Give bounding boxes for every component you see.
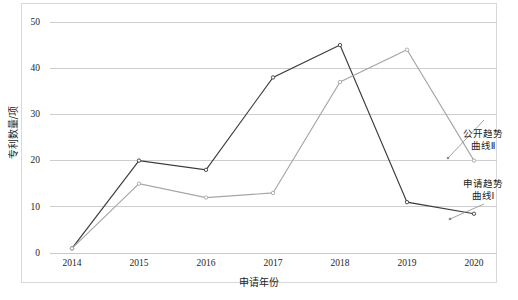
xtick-label-2015: 2015 [119,258,159,268]
gridlines [50,22,497,253]
series-layer [70,43,475,250]
xtick-label-2016: 2016 [186,258,226,268]
data-point [204,168,207,171]
data-point [204,196,207,199]
data-point [472,159,475,162]
ytick-label-10: 10 [18,202,40,212]
patent-trend-line-chart: 50 40 30 20 10 0 2014 2015 2016 2017 201… [0,0,518,300]
ytick-label-0: 0 [18,248,40,258]
data-point [472,212,475,215]
annotation-application-curve: 申请趋势 曲线Ⅰ [452,178,514,202]
data-point [271,191,274,194]
xtick-label-2014: 2014 [52,258,92,268]
ytick-label-50: 50 [18,17,40,27]
ytick-label-20: 20 [18,155,40,165]
data-point [338,80,341,83]
data-point [137,182,140,185]
leader-application-head [449,218,452,221]
data-point [338,43,341,46]
data-point [405,48,408,51]
ytick-label-30: 30 [18,109,40,119]
xtick-label-2018: 2018 [320,258,360,268]
annotation-disclosure-curve: 公开趋势 曲线Ⅱ [452,128,514,152]
data-point [70,247,73,250]
data-point [405,200,408,203]
xtick-label-2020: 2020 [454,258,494,268]
y-axis-title: 专利数量/项 [5,88,20,178]
xtick-label-2019: 2019 [387,258,427,268]
leader-application [450,204,484,219]
xtick-label-2017: 2017 [253,258,293,268]
x-axis-title: 申请年份 [199,274,319,289]
data-point [137,159,140,162]
ytick-label-40: 40 [18,63,40,73]
plot-canvas [0,0,518,300]
leader-disclosure-head [447,157,450,160]
data-point [271,76,274,79]
